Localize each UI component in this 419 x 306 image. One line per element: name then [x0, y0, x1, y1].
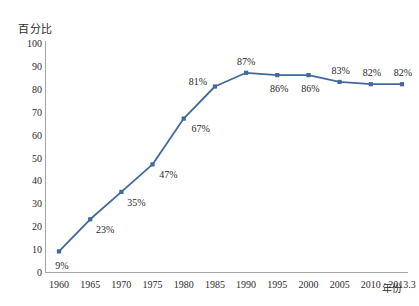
data-point-label: 9%	[55, 260, 68, 271]
data-point-marker	[400, 82, 404, 86]
data-point-marker	[57, 249, 61, 253]
data-point-marker	[244, 71, 248, 75]
data-point-label: 82%	[394, 67, 412, 78]
data-point-label: 35%	[127, 197, 145, 208]
data-point-marker	[306, 73, 310, 77]
data-point-marker	[338, 80, 342, 84]
data-point-label: 86%	[301, 83, 319, 94]
data-point-marker	[182, 117, 186, 121]
data-point-marker	[213, 84, 217, 88]
data-point-label: 23%	[96, 224, 114, 235]
data-point-label: 83%	[331, 65, 349, 76]
data-point-marker	[275, 73, 279, 77]
line-chart: 百分比 0102030405060708090100 1960196519701…	[0, 0, 419, 306]
x-axis-title: 年份	[382, 280, 402, 295]
data-point-marker	[88, 217, 92, 221]
data-point-marker	[150, 162, 154, 166]
data-point-marker	[119, 190, 123, 194]
data-point-label: 67%	[192, 123, 210, 134]
data-point-marker	[369, 82, 373, 86]
data-point-label: 81%	[189, 76, 207, 87]
data-point-label: 82%	[363, 67, 381, 78]
data-point-label: 87%	[237, 56, 255, 67]
data-point-label: 86%	[270, 83, 288, 94]
data-point-label: 47%	[159, 169, 177, 180]
